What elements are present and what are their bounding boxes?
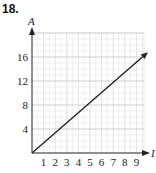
svg-text:8: 8 [122, 156, 128, 168]
svg-text:4: 4 [23, 123, 29, 135]
axes [29, 27, 150, 156]
svg-text:6: 6 [99, 156, 105, 168]
grid [32, 33, 144, 153]
svg-text:16: 16 [17, 51, 29, 63]
svg-text:12: 12 [17, 75, 28, 87]
svg-text:7: 7 [110, 156, 116, 168]
chart: 123456789481216 I A [0, 0, 156, 173]
svg-text:9: 9 [134, 156, 140, 168]
svg-text:4: 4 [76, 156, 82, 168]
svg-text:2: 2 [52, 156, 58, 168]
svg-text:1: 1 [41, 156, 47, 168]
x-axis-label: I [150, 147, 156, 159]
svg-text:5: 5 [87, 156, 93, 168]
svg-text:8: 8 [23, 99, 29, 111]
svg-text:3: 3 [64, 156, 70, 168]
y-axis-label: A [27, 15, 35, 27]
